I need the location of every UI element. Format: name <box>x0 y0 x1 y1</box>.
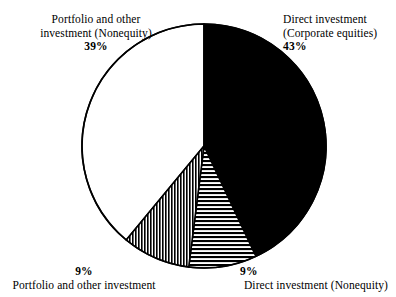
label-percent: 39% <box>12 40 180 54</box>
label-line-1: Direct investment <box>283 13 396 27</box>
label-percent: 43% <box>283 40 396 54</box>
label-line-1: Portfolio and other investment <box>8 279 160 293</box>
slice-label-portfolio-other: 9% Portfolio and other investment <box>8 265 160 292</box>
slice-label-portfolio-nonequity: Portfolio and other investment (Nonequit… <box>12 13 180 54</box>
label-line-1: Portfolio and other <box>12 13 180 27</box>
pie-chart-figure: Portfolio and other investment (Nonequit… <box>0 0 396 297</box>
label-line-2: investment (Nonequity) <box>12 27 180 41</box>
slice-label-direct-nonequity: 9% Direct investment (Nonequity) <box>240 265 392 292</box>
label-percent: 9% <box>8 265 160 279</box>
slice-label-direct-corporate: Direct investment (Corporate equities) 4… <box>283 13 396 54</box>
label-percent: 9% <box>240 265 392 279</box>
label-line-2: (Corporate equities) <box>283 27 396 41</box>
label-line-1: Direct investment (Nonequity) <box>240 279 392 293</box>
